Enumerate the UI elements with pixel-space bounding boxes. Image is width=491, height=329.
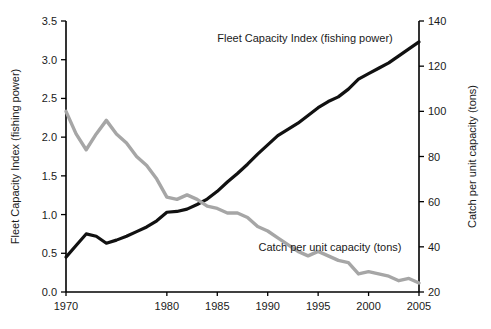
x-tick-label: 1990 [255, 300, 279, 312]
left-tick-label: 3.0 [42, 54, 57, 66]
right-tick-label: 20 [428, 286, 440, 298]
right-tick-label: 60 [428, 196, 440, 208]
right-tick-label: 140 [428, 15, 446, 27]
x-tick-label: 1985 [205, 300, 229, 312]
left-tick-label: 0.0 [42, 286, 57, 298]
right-tick-label: 100 [428, 105, 446, 117]
fleet-capacity-annotation: Fleet Capacity Index (fishing power) [217, 32, 392, 44]
x-tick-label: 2005 [407, 300, 431, 312]
right-axis-title: Catch per unit capacity (tons) [466, 85, 478, 228]
x-tick-label: 1980 [155, 300, 179, 312]
left-tick-label: 0.5 [42, 247, 57, 259]
left-tick-label: 2.0 [42, 131, 57, 143]
left-tick-label: 3.5 [42, 15, 57, 27]
right-tick-label: 80 [428, 151, 440, 163]
catch-per-unit-annotation: Catch per unit capacity (tons) [258, 241, 401, 253]
x-tick-label: 1970 [54, 300, 78, 312]
right-tick-label: 40 [428, 241, 440, 253]
chart-figure: 0.00.51.01.52.02.53.03.5 204060801001201… [0, 0, 491, 329]
x-tick-label: 2000 [356, 300, 380, 312]
right-tick-label: 120 [428, 60, 446, 72]
line-chart: 0.00.51.01.52.02.53.03.5 204060801001201… [0, 0, 491, 329]
left-tick-label: 2.5 [42, 92, 57, 104]
left-axis-title: Fleet Capacity Index (fishing power) [9, 69, 21, 244]
left-tick-label: 1.0 [42, 209, 57, 221]
x-tick-label: 1995 [306, 300, 330, 312]
left-tick-label: 1.5 [42, 170, 57, 182]
